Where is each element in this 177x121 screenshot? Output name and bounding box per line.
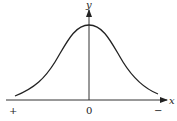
- left-sign-label: +: [9, 105, 17, 116]
- x-axis-label: x: [169, 95, 175, 106]
- origin-label: 0: [86, 105, 92, 116]
- right-sign-label: −: [154, 105, 162, 116]
- bell-curve-diagram: y x 0 + −: [0, 0, 177, 121]
- y-axis-label: y: [85, 0, 92, 10]
- bell-curve: [15, 25, 158, 96]
